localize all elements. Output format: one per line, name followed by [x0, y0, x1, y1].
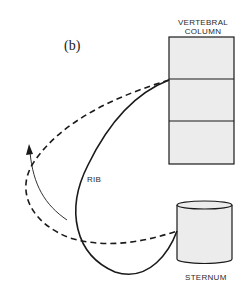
vertebral-column-label-line2: COLUMN	[172, 27, 234, 36]
panel-label: (b)	[64, 38, 80, 54]
rib-label: RIB	[87, 175, 101, 184]
vertebral-column	[169, 37, 234, 164]
rib-movement-diagram	[0, 0, 248, 296]
rib-elevated-dashed	[26, 80, 177, 244]
vertebral-column-label-line1: VERTEBRAL	[172, 18, 234, 27]
vertebral-column-label: VERTEBRAL COLUMN	[172, 18, 234, 36]
sternum-label: STERNUM	[185, 273, 227, 282]
sternum-cylinder	[177, 201, 232, 264]
